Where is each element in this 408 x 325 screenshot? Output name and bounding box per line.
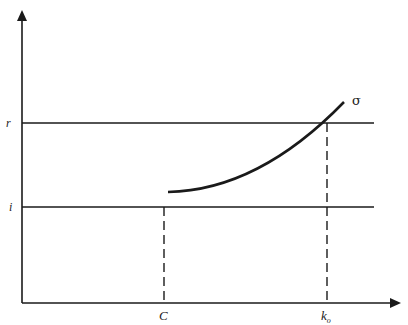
k-o-label: ko xyxy=(321,308,331,325)
r-label: r xyxy=(6,116,11,130)
k-o-label-subscript: o xyxy=(327,316,331,325)
sigma-label: σ xyxy=(352,93,361,108)
sigma-curve xyxy=(168,102,344,192)
i-label: i xyxy=(9,200,12,214)
diagram-canvas: r i C ko σ xyxy=(0,0,408,325)
x-axis-arrowhead-icon xyxy=(390,298,401,308)
c-label: C xyxy=(159,308,168,323)
y-axis-arrowhead-icon xyxy=(17,10,27,21)
